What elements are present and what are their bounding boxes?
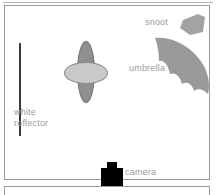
camera-label: camera [125,167,156,178]
subject-head-shape [64,62,108,84]
diagram-page: white reflector snoot umbrella [0,0,219,195]
umbrella-label: umbrella [129,63,165,74]
camera-body-shape [101,168,123,186]
lighting-setup-diagram: white reflector snoot umbrella [4,5,210,180]
snoot-shape [178,14,206,36]
subject-figure [64,41,108,103]
lower-section-box [4,186,210,195]
snoot-label: snoot [145,17,168,28]
scene-canvas: white reflector snoot umbrella [5,6,209,179]
camera-shape [101,162,123,186]
white-reflector-label: white reflector [14,107,48,129]
top-divider-rule [3,2,213,3]
